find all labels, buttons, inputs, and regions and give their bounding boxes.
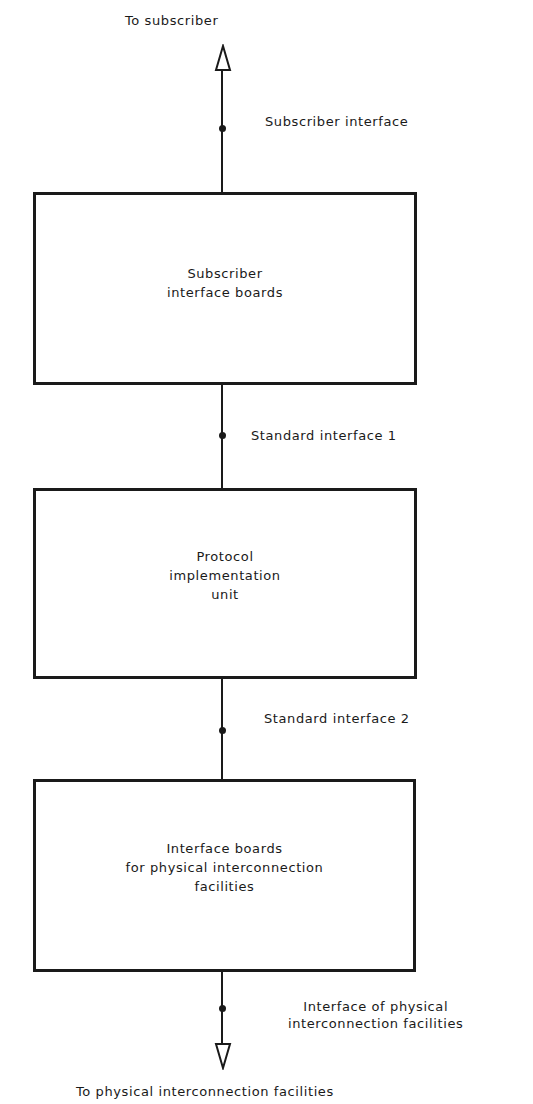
connector-top [221,70,223,194]
box-1-line-2: interface boards [167,283,283,302]
box-subscriber-interface-boards: Subscriber interface boards [33,192,417,385]
box-2-line-1: Protocol [169,547,280,566]
arrow-up-icon [213,44,233,74]
arrow-down-icon [213,1040,233,1070]
interface-point-physical [219,1005,226,1012]
box-protocol-implementation-unit: Protocol implementation unit [33,488,417,679]
interface-label-physical-line-1: Interface of physical [288,998,463,1015]
box-2-line-2: implementation [169,566,280,585]
bottom-endpoint-label: To physical interconnection facilities [76,1084,334,1099]
interface-point-standard-2 [219,727,226,734]
interface-label-standard-1: Standard interface 1 [251,428,397,443]
box-3-line-2: for physical interconnection [126,858,324,877]
box-1-line-1: Subscriber [167,264,283,283]
interface-label-subscriber: Subscriber interface [265,114,408,129]
interface-label-physical-line-2: interconnection facilities [288,1015,463,1032]
box-physical-interconnection-boards: Interface boards for physical interconne… [33,779,416,972]
interface-point-subscriber [219,125,226,132]
interface-label-physical: Interface of physical interconnection fa… [288,998,463,1032]
interface-label-standard-2: Standard interface 2 [264,711,410,726]
box-3-line-3: facilities [126,877,324,896]
interface-point-standard-1 [219,432,226,439]
box-3-line-1: Interface boards [126,839,324,858]
box-2-line-3: unit [169,585,280,604]
top-endpoint-label: To subscriber [125,13,218,28]
